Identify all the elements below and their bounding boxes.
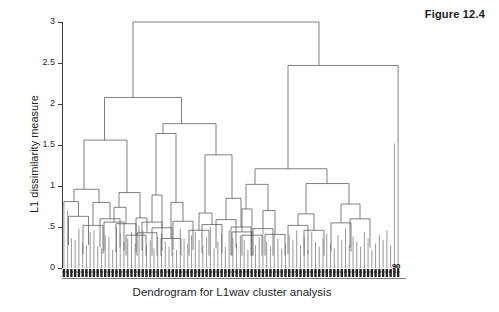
figure-page: Figure 12.4 0.511.522.53 L1 dissimilarit… <box>0 0 499 312</box>
dendrogram-chart: 0.511.522.53 <box>0 0 499 312</box>
y-axis-tick-label: 1.5 <box>42 139 55 149</box>
y-axis-tick-label: .5 <box>47 221 55 231</box>
y-axis-tick-label: 3 <box>50 16 55 26</box>
x-axis-caption: Dendrogram for L1wav cluster analysis <box>62 286 402 298</box>
leaf-count-label: 90 <box>392 262 400 271</box>
axis-group: 0.511.522.53 <box>42 16 62 272</box>
y-axis-tick-label: 2.5 <box>42 57 55 67</box>
leaf-label-band <box>62 269 406 279</box>
dendrogram-tree <box>64 22 398 256</box>
y-axis-tick-label: 1 <box>50 180 55 190</box>
y-axis-tick-label: 2 <box>50 98 55 108</box>
y-axis-tick-label: 0 <box>50 262 55 272</box>
y-axis-title: L1 dissimilarity measure <box>28 54 40 254</box>
